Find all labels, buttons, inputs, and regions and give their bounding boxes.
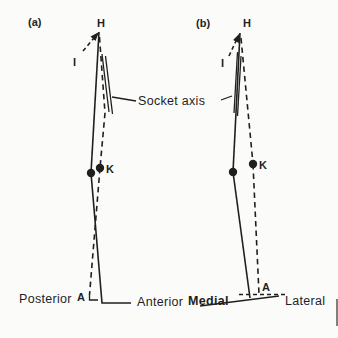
panel-a-reference-label: I (73, 56, 76, 68)
panel-a-socket-axis-knee-dot (96, 164, 104, 172)
alignment-figure: (a) H I K A Posterior Anterior (0, 0, 338, 338)
socket-axis-leader-left (112, 97, 136, 101)
panel-b-reference-label: I (221, 57, 224, 69)
socket-axis-leader-right (221, 96, 232, 100)
panel-a-socket-wall-right (106, 56, 113, 114)
panel-b-socket-axis-knee-dot (249, 160, 257, 168)
panel-a-load-line-knee-dot (87, 169, 95, 177)
panel-b: (b) H I K A Medial Later (188, 17, 325, 308)
panel-b-load-line-knee-dot (229, 168, 237, 176)
panel-a-hip-label: H (97, 17, 105, 29)
panel-a-socket-axis-lower (90, 168, 101, 295)
panel-a-load-line-thigh (91, 32, 99, 173)
panel-a-ankle-tick (90, 295, 99, 300)
panel-b-hip-label: H (243, 17, 251, 29)
panel-a-knee-label: K (106, 163, 114, 175)
panel-b-load-line-shank (233, 172, 250, 298)
panel-b-reference-line (229, 41, 236, 56)
alignment-diagram-svg: (a) H I K A Posterior Anterior (0, 0, 338, 338)
panel-b-knee-label: K (259, 159, 267, 171)
panel-a-ankle-label: A (77, 291, 85, 303)
panel-b-direction-left: Medial (188, 294, 229, 308)
panel-a-socket-wall-left (102, 54, 109, 112)
socket-axis-label: Socket axis (138, 94, 205, 108)
panel-a-direction-right: Anterior (137, 295, 183, 309)
panel-b-socket-axis-upper (241, 38, 253, 164)
panel-a-tag: (a) (28, 16, 42, 28)
panel-b-socket-axis-lower (253, 164, 259, 294)
panel-b-tag: (b) (196, 17, 210, 29)
panel-a-direction-left: Posterior (19, 292, 72, 306)
socket-axis-callout: Socket axis (112, 94, 232, 108)
panel-a: (a) H I K A Posterior Anterior (19, 16, 183, 309)
panel-b-ankle-label: A (262, 281, 270, 293)
panel-a-load-line-shank-foot (91, 173, 131, 303)
panel-a-reference-line (83, 38, 94, 51)
panel-b-direction-right: Lateral (285, 294, 325, 308)
